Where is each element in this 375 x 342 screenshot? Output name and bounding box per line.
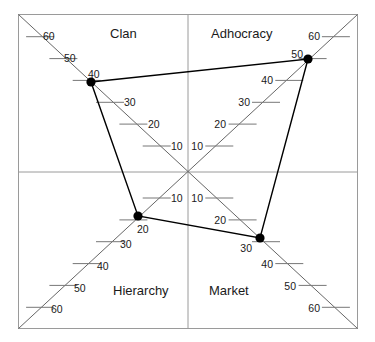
tick-label-adhocracy-60: 60: [308, 30, 320, 42]
tick-label-adhocracy-50: 50: [291, 48, 303, 60]
tick-label-adhocracy-30: 30: [238, 96, 250, 108]
tick-label-clan-20: 20: [148, 118, 160, 130]
tick-label-clan-50: 50: [64, 52, 76, 64]
quadrant-label-hierarchy: Hierarchy: [113, 283, 169, 298]
chart-canvas: 10 20 30 40 50 60 10 20 30 40 50 60: [0, 0, 375, 342]
data-point-hierarchy[interactable]: [133, 211, 142, 220]
tick-label-hierarchy-10: 10: [171, 192, 183, 204]
tick-label-hierarchy-60: 60: [51, 303, 63, 315]
tick-label-market-50: 50: [284, 280, 296, 292]
tick-label-clan-10: 10: [171, 140, 183, 152]
tick-label-market-40: 40: [261, 258, 273, 270]
tick-label-hierarchy-50: 50: [74, 282, 86, 294]
quadrant-label-market: Market: [209, 283, 249, 298]
data-point-market[interactable]: [255, 233, 264, 242]
quadrant-label-clan: Clan: [110, 26, 137, 41]
tick-label-adhocracy-10: 10: [191, 140, 203, 152]
tick-label-clan-30: 30: [124, 96, 136, 108]
tick-label-market-20: 20: [214, 214, 226, 226]
data-point-adhocracy[interactable]: [303, 54, 312, 63]
tick-label-market-10: 10: [191, 192, 203, 204]
tick-label-hierarchy-40: 40: [97, 260, 109, 272]
tick-label-hierarchy-20: 20: [137, 223, 149, 235]
tick-label-hierarchy-30: 30: [120, 238, 132, 250]
tick-label-market-60: 60: [308, 302, 320, 314]
tick-label-clan-60: 60: [43, 30, 55, 42]
quadrant-label-adhocracy: Adhocracy: [211, 26, 273, 41]
ocai-radar-chart: 10 20 30 40 50 60 10 20 30 40 50 60: [0, 0, 375, 342]
tick-label-market-30: 30: [240, 242, 252, 254]
tick-label-adhocracy-20: 20: [214, 118, 226, 130]
tick-label-adhocracy-40: 40: [261, 74, 273, 86]
data-point-clan[interactable]: [86, 77, 95, 86]
